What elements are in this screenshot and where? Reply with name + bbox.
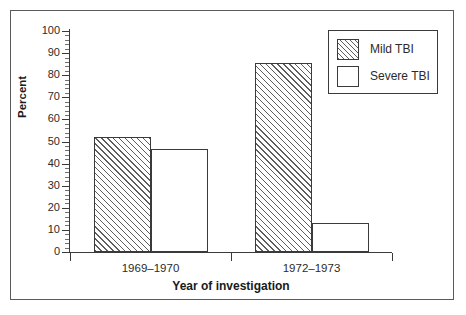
y-axis-tick-label: 10 bbox=[34, 224, 60, 235]
y-axis-tick-label: 80 bbox=[34, 69, 60, 80]
y-axis-minor-tick bbox=[65, 106, 69, 107]
x-axis-tick bbox=[70, 253, 71, 261]
y-axis-tick-label: 50 bbox=[34, 136, 60, 147]
y-axis-minor-tick bbox=[65, 88, 69, 89]
y-axis-minor-tick bbox=[65, 199, 69, 200]
y-axis-minor-tick bbox=[65, 40, 69, 41]
y-axis-minor-tick bbox=[65, 172, 69, 173]
y-axis-minor-tick bbox=[65, 181, 69, 182]
y-axis-minor-tick bbox=[65, 58, 69, 59]
y-axis-tick-label: 30 bbox=[34, 180, 60, 191]
y-axis-minor-tick bbox=[65, 128, 69, 129]
y-axis-minor-tick bbox=[65, 146, 69, 147]
legend-label: Mild TBI bbox=[370, 42, 414, 56]
y-axis-tick-label: 20 bbox=[34, 202, 60, 213]
y-axis-tick-label: 0 bbox=[34, 246, 60, 257]
bar-severe-tbi-1972-1973 bbox=[312, 223, 369, 252]
y-axis-minor-tick bbox=[65, 102, 69, 103]
x-axis-tick-label: 1969–1970 bbox=[91, 262, 211, 274]
y-axis-minor-tick bbox=[65, 239, 69, 240]
y-axis-minor-tick bbox=[65, 35, 69, 36]
y-axis-major-tick bbox=[62, 97, 69, 98]
y-axis-minor-tick bbox=[65, 221, 69, 222]
y-axis-minor-tick bbox=[65, 203, 69, 204]
legend-label: Severe TBI bbox=[370, 69, 430, 83]
y-axis-major-tick bbox=[62, 208, 69, 209]
y-axis-minor-tick bbox=[65, 177, 69, 178]
y-axis-minor-tick bbox=[65, 44, 69, 45]
y-axis-minor-tick bbox=[65, 248, 69, 249]
y-axis-minor-tick bbox=[65, 225, 69, 226]
y-axis-minor-tick bbox=[65, 234, 69, 235]
y-axis-tick-labels: 1009080706050403020100 bbox=[30, 0, 60, 315]
bar-mild-tbi-1972-1973 bbox=[255, 63, 312, 252]
x-axis-tick-label: 1972–1973 bbox=[252, 262, 372, 274]
bar-mild-tbi-1969-1970 bbox=[94, 137, 151, 252]
chart-figure: 1009080706050403020100 1969–19701972–197… bbox=[0, 0, 466, 315]
y-axis-major-tick bbox=[62, 186, 69, 187]
chart-legend: Mild TBISevere TBI bbox=[328, 30, 438, 94]
y-axis-minor-tick bbox=[65, 195, 69, 196]
y-axis-tick-label: 60 bbox=[34, 113, 60, 124]
bar-severe-tbi-1969-1970 bbox=[151, 149, 208, 252]
legend-item-severe-tbi: Severe TBI bbox=[337, 64, 430, 88]
y-axis-major-tick bbox=[62, 75, 69, 76]
y-axis-minor-tick bbox=[65, 124, 69, 125]
y-axis-major-tick bbox=[62, 252, 69, 253]
y-axis-minor-tick bbox=[65, 155, 69, 156]
y-axis-minor-tick bbox=[65, 212, 69, 213]
y-axis-major-tick bbox=[62, 230, 69, 231]
y-axis-minor-tick bbox=[65, 49, 69, 50]
y-axis-major-tick bbox=[62, 119, 69, 120]
y-axis-tick-label: 40 bbox=[34, 158, 60, 169]
y-axis-major-tick bbox=[62, 164, 69, 165]
y-axis-major-tick bbox=[62, 142, 69, 143]
y-axis-tick-label: 70 bbox=[34, 91, 60, 102]
legend-item-mild-tbi: Mild TBI bbox=[337, 37, 414, 61]
y-axis-major-tick bbox=[62, 53, 69, 54]
y-axis-minor-tick bbox=[65, 84, 69, 85]
y-axis-minor-tick bbox=[65, 66, 69, 67]
y-axis-minor-tick bbox=[65, 71, 69, 72]
y-axis-minor-tick bbox=[65, 168, 69, 169]
x-axis-tick bbox=[231, 253, 232, 261]
y-axis-minor-tick bbox=[65, 80, 69, 81]
y-axis-minor-tick bbox=[65, 159, 69, 160]
y-axis-minor-tick bbox=[65, 190, 69, 191]
y-axis-minor-tick bbox=[65, 137, 69, 138]
y-axis-minor-tick bbox=[65, 150, 69, 151]
y-axis-tick-label: 90 bbox=[34, 47, 60, 58]
y-axis-minor-tick bbox=[65, 243, 69, 244]
y-axis-title: Percent bbox=[16, 76, 28, 118]
y-axis-major-tick bbox=[62, 31, 69, 32]
y-axis-minor-tick bbox=[65, 62, 69, 63]
y-axis-minor-tick bbox=[65, 93, 69, 94]
y-axis-minor-tick bbox=[65, 115, 69, 116]
x-axis-title: Year of investigation bbox=[70, 279, 392, 293]
y-axis-minor-tick bbox=[65, 217, 69, 218]
y-axis-tick-label: 100 bbox=[34, 25, 60, 36]
empty-square-icon bbox=[337, 66, 359, 87]
hatched-square-icon bbox=[337, 39, 359, 60]
x-axis-tick-end bbox=[392, 253, 393, 261]
y-axis-minor-tick bbox=[65, 111, 69, 112]
y-axis-minor-tick bbox=[65, 133, 69, 134]
